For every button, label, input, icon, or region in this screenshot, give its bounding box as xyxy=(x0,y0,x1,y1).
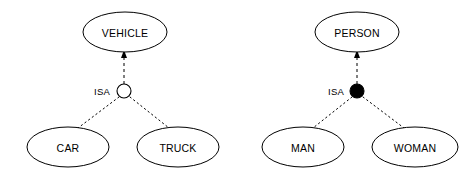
isa-hierarchy-diagram: VEHICLE ISA CAR TRUCK PERSON ISA xyxy=(0,0,473,179)
vehicle-isa-group: VEHICLE ISA CAR TRUCK xyxy=(27,12,219,167)
entity-label-woman: WOMAN xyxy=(394,142,436,154)
diagram-canvas: VEHICLE ISA CAR TRUCK PERSON ISA xyxy=(0,0,473,179)
entity-label-person: PERSON xyxy=(334,27,380,39)
link-woman xyxy=(363,97,404,128)
entity-label-man: MAN xyxy=(291,142,315,154)
isa-junction-filled-circle-icon[interactable] xyxy=(350,84,364,98)
isa-label-vehicle: ISA xyxy=(94,86,110,97)
isa-junction-hollow-circle-icon[interactable] xyxy=(117,84,131,98)
person-isa-group: PERSON ISA MAN WOMAN xyxy=(262,12,458,167)
link-man xyxy=(313,97,352,128)
entity-label-truck: TRUCK xyxy=(159,142,196,154)
link-truck xyxy=(130,97,169,128)
link-car xyxy=(78,97,119,128)
entity-label-car: CAR xyxy=(57,142,80,154)
isa-label-person: ISA xyxy=(328,86,344,97)
entity-label-vehicle: VEHICLE xyxy=(102,27,148,39)
